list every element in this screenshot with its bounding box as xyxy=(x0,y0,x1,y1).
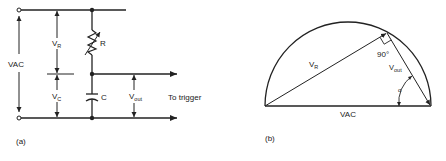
bottom-terminal xyxy=(17,116,21,120)
vout-label: Vout xyxy=(129,92,142,102)
capacitor-label: C xyxy=(101,93,107,102)
vr-phasor-label: VR xyxy=(309,60,318,70)
right-angle-marker xyxy=(380,37,391,44)
semicircle-arc xyxy=(265,22,431,106)
top-terminal xyxy=(17,8,21,12)
vr-phasor xyxy=(265,34,386,107)
resistor-label: R xyxy=(100,39,106,48)
vout-phasor-label: Vout xyxy=(389,63,402,73)
vac-label: VAC xyxy=(8,60,24,69)
panel-b-caption: (b) xyxy=(265,134,275,143)
variable-resistor-arrow xyxy=(85,32,100,55)
resistor-symbol xyxy=(88,30,96,55)
right-angle-label: 90° xyxy=(377,50,389,59)
vr-label: VR xyxy=(52,39,61,49)
panel-a-caption: (a) xyxy=(16,137,26,146)
vac-base-label: VAC xyxy=(340,110,356,119)
alpha-label: α xyxy=(398,87,402,93)
diagram-canvas: VAC VR VC R C Vout To trigger (a) xyxy=(0,0,446,161)
panel-b-phasor: VAC VR Vout 90° α (b) xyxy=(265,22,431,143)
vc-label: VC xyxy=(52,92,61,102)
panel-a-circuit: VAC VR VC R C Vout To trigger (a) xyxy=(8,8,202,146)
to-trigger-label: To trigger xyxy=(168,93,202,102)
